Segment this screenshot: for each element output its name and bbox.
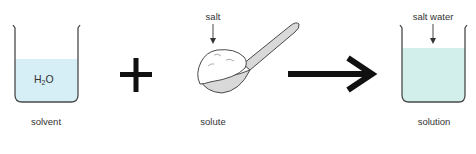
solvent-beaker	[13, 25, 80, 102]
right-arrow-icon	[288, 58, 372, 90]
diagram-canvas	[0, 0, 476, 154]
solution-beaker	[400, 24, 467, 102]
plus-icon	[120, 58, 152, 92]
salt-water-fill	[402, 48, 465, 102]
salt-callout-arrowhead	[210, 38, 216, 44]
solvent-caption: solvent	[31, 116, 61, 127]
solution-diagram: H2O solvent salt solute salt water solut…	[0, 0, 476, 154]
solution-caption: solution	[418, 116, 451, 127]
salt-callout-label: salt	[206, 11, 221, 22]
spoon-with-salt-icon	[198, 23, 299, 93]
spoon-handle	[243, 23, 299, 70]
solute-caption: solute	[200, 116, 225, 127]
salt-water-callout-label: salt water	[413, 11, 454, 22]
salt-water-callout-arrowhead	[430, 38, 436, 44]
h2o-label: H2O	[34, 73, 54, 86]
